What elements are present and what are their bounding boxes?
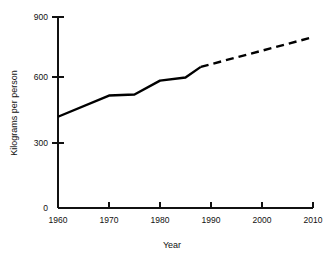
chart-container: 900 600 300 0 1960 1970 1980 1990 2000 2… [0,0,333,265]
y-axis-title: Kilograms per person [9,70,19,156]
x-tick-label-2010: 2010 [304,215,323,225]
y-tick-label-0: 0 [43,203,48,213]
x-axis-title: Year [163,240,181,250]
line-chart: 900 600 300 0 1960 1970 1980 1990 2000 2… [0,0,333,265]
series-line-observed [58,67,201,117]
series-line-projected [201,37,313,67]
y-tick-label-600: 600 [34,72,48,82]
x-tick-label-1970: 1970 [100,215,119,225]
y-tick-label-300: 300 [34,138,48,148]
y-tick-label-900: 900 [34,12,48,22]
x-tick-label-1980: 1980 [151,215,170,225]
x-tick-label-2000: 2000 [253,215,272,225]
x-tick-label-1960: 1960 [49,215,68,225]
x-tick-label-1990: 1990 [202,215,221,225]
